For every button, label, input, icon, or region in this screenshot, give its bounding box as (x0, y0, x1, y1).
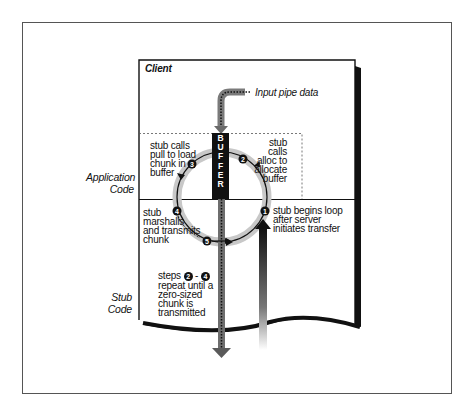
input-pipe-label: Input pipe data (255, 88, 318, 97)
svg-text:1: 1 (263, 208, 267, 215)
step2-description: stub calls alloc to allocate buffer (252, 138, 287, 183)
step-marker-5: 5 (203, 237, 212, 246)
stub-code-label: Stub Code (96, 291, 132, 315)
output-pipe-arrowhead (212, 348, 231, 358)
step4-description: stub marshalls and transmits chunk (143, 208, 200, 244)
svg-text:2: 2 (241, 156, 245, 163)
buffer-label: B U F F E R (212, 134, 229, 199)
repeat-note: steps 2 - 4 repeat until a zero-sized ch… (158, 271, 213, 317)
step3-description: stub calls pull to load chunk in buffer (150, 141, 196, 177)
svg-text:5: 5 (205, 238, 209, 245)
client-page-shadow (355, 66, 361, 327)
step1-description: stub begins loop after server initiates … (273, 206, 343, 233)
client-diagram: 1 2 3 4 5 (0, 0, 475, 415)
step-marker-2: 2 (239, 155, 248, 164)
step-marker-1: 1 (261, 207, 270, 216)
server-transfer-arrow (259, 228, 267, 350)
client-title: Client (145, 64, 172, 73)
application-code-label: Application Code (86, 171, 134, 195)
